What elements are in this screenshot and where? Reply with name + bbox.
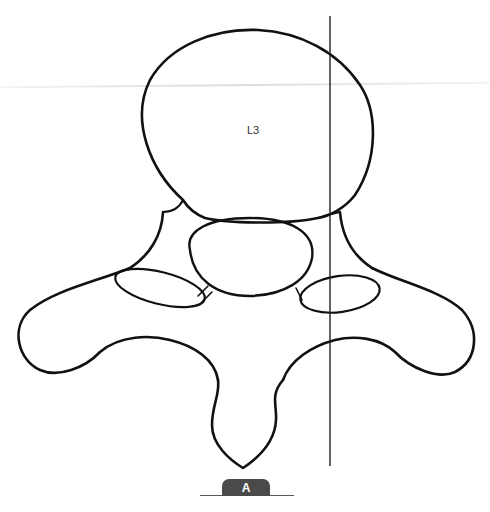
vertebra-diagram: L3 A [0, 0, 490, 512]
right-pedicle [340, 212, 372, 268]
vertebra-drawing [0, 0, 490, 512]
vertebra-label: L3 [247, 124, 259, 136]
left-pedicle-inner [163, 200, 183, 212]
left-pedicle [130, 212, 163, 268]
spinal-canal [189, 218, 312, 296]
spinous-process [212, 380, 283, 468]
right-pedicle-inner [318, 212, 340, 218]
panel-label: A [242, 481, 251, 495]
right-articular-facet [298, 271, 382, 318]
panel-label-tab: A [222, 479, 270, 496]
left-articular-facet [111, 261, 208, 314]
